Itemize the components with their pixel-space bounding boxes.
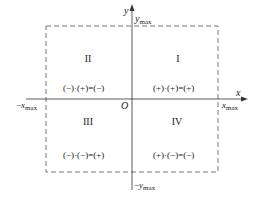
y-max-label: ymax: [135, 14, 152, 26]
origin-label: O: [121, 101, 128, 111]
x-axis-arrow-icon: [241, 97, 248, 102]
neg-x-sub: max: [25, 104, 37, 112]
x-max-label: xmax: [222, 101, 238, 112]
y-axis-arrow-icon: [130, 4, 135, 11]
y-max-sub: max: [139, 18, 151, 26]
y-axis-label: y: [124, 6, 128, 16]
quadrant-iii-numeral: III: [78, 117, 98, 127]
quadrant-ii-numeral: II: [78, 54, 98, 64]
quadrant-iii-rule: (−)·(−)=(+): [63, 151, 104, 160]
neg-x-max-label: −xmax: [16, 101, 37, 112]
x-axis-label: x: [236, 88, 240, 98]
quadrant-ii-rule: (−)·(+)=(−): [63, 84, 104, 93]
quadrant-i-numeral: I: [168, 54, 188, 64]
quadrant-i-rule: (+)·(+)=(+): [153, 84, 194, 93]
neg-y-max-label: −ymax: [134, 181, 155, 192]
x-max-sub: max: [226, 104, 238, 112]
neg-y-sub: max: [143, 184, 155, 192]
quadrant-iv-numeral: IV: [167, 117, 187, 127]
quadrant-iv-rule: (+)·(−)=(−): [153, 151, 194, 160]
